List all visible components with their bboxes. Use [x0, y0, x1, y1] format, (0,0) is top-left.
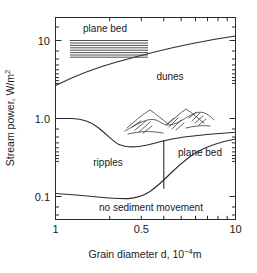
y-axis-ticks-right — [230, 27, 236, 215]
x-tick-label-10: 10 — [229, 223, 241, 235]
x-tick-label-0p5: 0.5 — [134, 223, 149, 235]
y-tick-label-10: 10 — [38, 35, 50, 47]
y-axis-title-exponent: 2 — [3, 70, 12, 74]
y-axis-title-main: Stream power, W/m — [4, 74, 16, 166]
y-tick-label-0p1: 0.1 — [35, 191, 50, 203]
y-axis-title: Stream power, W/m2 — [3, 70, 16, 166]
plane-bed-hatch-annotation — [70, 41, 148, 58]
region-label-no-sediment-movement: no sediment movement — [99, 202, 203, 213]
region-label-plane-bed-upper: plane bed — [83, 23, 127, 34]
y-axis-ticks — [56, 18, 62, 216]
stream-power-grain-diameter-chart: 10 1.0 0.1 1 0.5 10 Grain diameter d, 10… — [0, 0, 257, 273]
region-label-plane-bed-right: plane bed — [178, 147, 222, 158]
x-axis-title-exponent: −4 — [184, 247, 193, 256]
y-tick-label-1: 1.0 — [35, 113, 50, 125]
x-axis-title-tail: m — [193, 248, 202, 260]
x-axis-ticks-top — [110, 18, 228, 22]
x-axis-title-main: Grain diameter d, 10 — [88, 248, 184, 260]
x-tick-label-1: 1 — [52, 223, 58, 235]
curve-dunes-ripples — [56, 119, 236, 147]
chart-figure: 10 1.0 0.1 1 0.5 10 Grain diameter d, 10… — [0, 0, 257, 273]
dune-bedform-sketch — [125, 109, 214, 134]
region-label-dunes: dunes — [156, 71, 183, 82]
region-label-ripples: ripples — [93, 157, 122, 168]
x-axis-title: Grain diameter d, 10−4m — [88, 247, 201, 260]
x-axis-ticks — [56, 214, 236, 220]
